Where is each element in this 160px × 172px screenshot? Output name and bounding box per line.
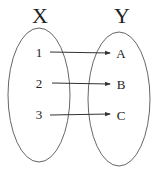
set-y-element-c: C	[117, 108, 126, 123]
set-x-element-3: 3	[36, 107, 43, 122]
set-y-element-a: A	[116, 46, 126, 61]
arrow-1-to-a	[50, 52, 110, 53]
set-y-element-b: B	[117, 77, 126, 92]
set-x-element-2: 2	[36, 76, 43, 91]
arrow-3-to-c	[50, 114, 110, 115]
set-x-element-1: 1	[36, 45, 43, 60]
set-x-title: X	[32, 3, 48, 28]
set-y-title: Y	[114, 3, 130, 28]
arrow-2-to-b	[52, 83, 110, 84]
mapping-diagram: X 1 2 3 Y A B C	[0, 0, 160, 172]
